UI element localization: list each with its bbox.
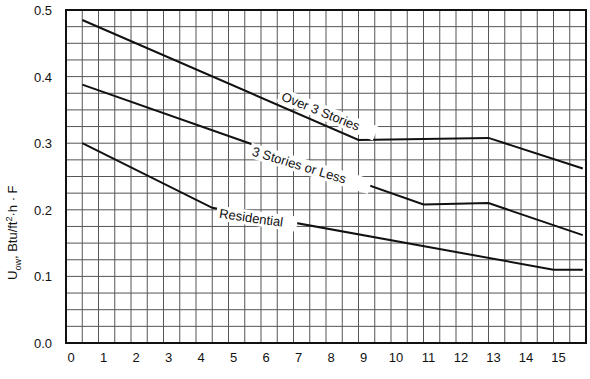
x-tick-label: 11: [422, 350, 436, 365]
x-tick-label: 9: [360, 350, 367, 365]
x-tick-label: 7: [295, 350, 302, 365]
y-tick-label: 0.2: [34, 203, 52, 218]
x-tick-label: 13: [486, 350, 500, 365]
x-axis-ticks: 0123456789101112131415: [67, 350, 565, 365]
y-tick-label: 0.1: [34, 269, 52, 284]
data-series: [82, 20, 583, 270]
series-line: [82, 20, 583, 169]
x-tick-label: 1: [100, 350, 107, 365]
x-tick-label: 4: [197, 350, 204, 365]
chart: 0.00.10.20.30.40.5 012345678910111213141…: [0, 0, 590, 379]
y-tick-label: 0.0: [34, 336, 52, 351]
x-tick-label: 12: [454, 350, 468, 365]
x-tick-label: 6: [262, 350, 269, 365]
series-line: [82, 143, 583, 270]
y-tick-label: 0.3: [34, 136, 52, 151]
x-tick-label: 5: [230, 350, 237, 365]
x-tick-label: 14: [519, 350, 533, 365]
series-label: 3 Stories or Less: [250, 144, 348, 187]
y-tick-label: 0.4: [34, 70, 52, 85]
x-tick-label: 0: [67, 350, 74, 365]
y-axis-label: Uow, Btu/ft2·h · F: [4, 185, 23, 280]
x-tick-label: 10: [389, 350, 403, 365]
y-tick-label: 0.5: [34, 3, 52, 18]
y-axis-ticks: 0.00.10.20.30.40.5: [34, 3, 52, 351]
x-tick-label: 8: [327, 350, 334, 365]
x-tick-label: 3: [165, 350, 172, 365]
x-tick-label: 2: [132, 350, 139, 365]
x-tick-label: 15: [551, 350, 565, 365]
